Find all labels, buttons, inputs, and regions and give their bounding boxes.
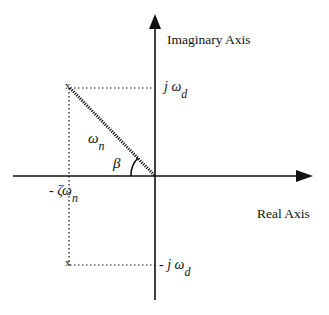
imaginary-axis-arrow <box>149 14 161 29</box>
omega-n-label: ωn <box>88 130 105 147</box>
beta-angle-arc <box>131 158 138 176</box>
beta-label: β <box>113 155 120 172</box>
neg-j-omega-d-text: - j ω <box>159 257 184 272</box>
upper-pole-marker: x <box>65 79 71 91</box>
imaginary-axis-label: Imaginary Axis <box>167 32 251 48</box>
real-axis-arrow <box>296 170 313 182</box>
neg-j-omega-d-subscript: d <box>184 265 190 279</box>
neg-zeta-omega-n-label: - ζωn <box>49 183 78 199</box>
j-omega-d-text: j ω <box>164 79 181 94</box>
omega-n-text: ω <box>88 130 99 146</box>
neg-zeta-omega-n-subscript: n <box>72 191 78 205</box>
j-omega-d-label: j ωd <box>164 79 187 95</box>
j-omega-d-subscript: d <box>181 87 187 101</box>
lower-pole-marker: x <box>65 256 71 268</box>
neg-zeta-omega-n-text: - ζω <box>49 183 72 198</box>
omega-n-subscript: n <box>99 139 105 153</box>
real-axis-label: Real Axis <box>257 206 310 222</box>
neg-j-omega-d-label: - j ωd <box>159 257 190 273</box>
